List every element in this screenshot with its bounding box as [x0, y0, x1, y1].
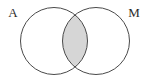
- set-label-m: M: [128, 5, 140, 20]
- set-label-a: A: [8, 5, 18, 20]
- venn-diagram-canvas: A M: [0, 0, 150, 81]
- venn-diagram-figure: A M: [0, 0, 150, 81]
